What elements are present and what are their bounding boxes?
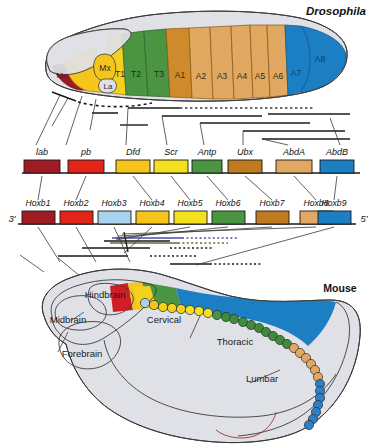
hom-c-gene-Ubx[interactable]: Ubx [228, 147, 262, 173]
hoxb-gene-Hoxb3[interactable]: Hoxb3 [98, 198, 131, 224]
gene-label-AbdA: AbdA [282, 147, 305, 157]
segment-label-A3: A3 [217, 71, 228, 81]
axial-label-cervical: Cervical [147, 314, 181, 325]
ortholog-line-6 [245, 176, 272, 200]
segment-label-Mn: Mn [56, 71, 67, 80]
gene-box-Hoxb4[interactable] [136, 211, 169, 224]
hoxb-gene-Hoxb1[interactable]: Hoxb1 [22, 198, 55, 224]
somite-31 [304, 420, 313, 429]
gene-label-Hoxb3: Hoxb3 [102, 198, 127, 208]
drosophila-ventral-dashes [52, 92, 76, 101]
gene-box-Ubx[interactable] [228, 160, 262, 173]
ortholog-line-7 [294, 176, 316, 200]
somite-3 [158, 302, 167, 311]
ortholog-line-3 [133, 176, 152, 200]
gene-box-AbdA[interactable] [276, 160, 312, 173]
gene-label-lab: lab [36, 147, 48, 157]
hom-c-gene-AbdA[interactable]: AbdA [276, 147, 312, 173]
ortholog-line-5 [207, 176, 228, 200]
gene-label-Hoxb6: Hoxb6 [216, 198, 241, 208]
segment-label-A1: A1 [175, 70, 186, 80]
leader-pb [66, 96, 82, 145]
leader-Antp [200, 123, 204, 145]
hom-c-cluster: lab pb Dfd Scr Antp Ubx [22, 147, 360, 173]
segment-band-A3 [210, 26, 234, 99]
ventral-solid [52, 92, 76, 101]
segment-label-A6: A6 [273, 71, 284, 81]
title-mouse: Mouse [323, 282, 356, 294]
hom-c-gene-Scr[interactable]: Scr [154, 147, 188, 173]
hom-c-gene-lab[interactable]: lab [24, 147, 60, 173]
leader-lab [36, 95, 60, 145]
segment-band-A1 [166, 28, 192, 98]
gene-box-Hoxb5[interactable] [174, 211, 207, 224]
brain-label-midbrain: Midbrain [50, 314, 86, 325]
somite-4 [167, 303, 176, 312]
axial-label-lumbar: Lumbar [246, 373, 278, 384]
gene-box-Antp[interactable] [192, 160, 222, 173]
segment-label-A5: A5 [255, 71, 266, 81]
hox-colinearity-figure: Mn Mx La T1 T2 T3 A1 A2 A3 A4 A5 A6 A7 A… [0, 0, 374, 444]
ortholog-line-1 [38, 176, 42, 200]
gene-label-AbdB: AbdB [325, 147, 348, 157]
somite-7 [194, 306, 203, 315]
gene-box-Hoxb2[interactable] [60, 211, 93, 224]
gene-box-Hoxb7[interactable] [256, 211, 289, 224]
segment-label-T2: T2 [131, 69, 141, 79]
gene-box-Dfd[interactable] [116, 160, 150, 173]
gene-box-Hoxb9[interactable] [318, 211, 351, 224]
segment-label-Mx: Mx [99, 63, 111, 73]
gene-box-AbdB[interactable] [320, 160, 354, 173]
leader-AbdA [262, 139, 288, 145]
gene-box-Scr[interactable] [154, 160, 188, 173]
mouse-expression-domains-dashed [150, 238, 262, 264]
segment-label-A4: A4 [237, 71, 248, 81]
gene-label-Antp: Antp [197, 147, 217, 157]
gene-box-Hoxb3[interactable] [98, 211, 131, 224]
ortholog-line-8 [334, 176, 337, 200]
somite-11 [229, 314, 238, 323]
drosophila-embryo-group: Mn Mx La T1 T2 T3 A1 A2 A3 A4 A5 A6 A7 A… [46, 5, 367, 101]
somite-9 [212, 310, 221, 319]
hom-c-gene-AbdB[interactable]: AbdB [320, 147, 354, 173]
segment-label-T1: T1 [115, 69, 125, 79]
gene-box-Hoxb6[interactable] [212, 211, 245, 224]
gene-label-Hoxb7: Hoxb7 [260, 198, 286, 208]
mouse-leader-lines [20, 227, 334, 276]
hom-c-gene-pb[interactable]: pb [68, 147, 104, 173]
mouse-bar-Hoxb1 [124, 232, 128, 252]
segment-band-A2 [189, 27, 213, 99]
mouse-leader-9 [196, 227, 334, 265]
hoxb-gene-Hoxb7[interactable]: Hoxb7 [256, 198, 289, 224]
ortholog-line-2 [76, 176, 86, 200]
gene-box-pb[interactable] [68, 160, 104, 173]
hoxb-gene-Hoxb6[interactable]: Hoxb6 [212, 198, 245, 224]
hoxb-end-3prime: 3' [8, 213, 16, 224]
ventral-dashed [78, 102, 152, 107]
hoxb-gene-Hoxb9[interactable]: Hoxb9 [318, 198, 351, 224]
leader-Dfd [126, 108, 128, 145]
hom-c-gene-Dfd[interactable]: Dfd [116, 147, 150, 173]
segment-label-La: La [104, 82, 113, 91]
gene-box-lab[interactable] [24, 160, 60, 173]
mouse-embryo-group: Hindbrain Midbrain Forebrain Cervical Th… [42, 269, 360, 443]
drosophila-leader-lines [36, 95, 350, 145]
gene-box-Hoxb1[interactable] [22, 211, 55, 224]
hoxb-gene-Hoxb2[interactable]: Hoxb2 [60, 198, 93, 224]
gene-label-pb: pb [80, 147, 91, 157]
somite-8 [203, 308, 212, 317]
title-drosophila: Drosophila [306, 5, 367, 17]
segment-band-A5 [250, 25, 270, 98]
axial-label-thoracic: Thoracic [217, 336, 254, 347]
hoxb-gene-Hoxb4[interactable]: Hoxb4 [136, 198, 169, 224]
brain-label-forebrain: Forebrain [62, 348, 103, 359]
hom-c-gene-Antp[interactable]: Antp [192, 147, 222, 173]
segment-label-A7: A7 [291, 68, 302, 78]
ortholog-line-4 [171, 176, 190, 200]
leader-fly-a [52, 98, 68, 126]
somite-6 [185, 305, 194, 314]
mouse-leader-10 [20, 255, 44, 272]
leader-fly-b [90, 99, 96, 130]
hoxb-gene-Hoxb5[interactable]: Hoxb5 [174, 198, 207, 224]
segment-label-T3: T3 [154, 69, 164, 79]
